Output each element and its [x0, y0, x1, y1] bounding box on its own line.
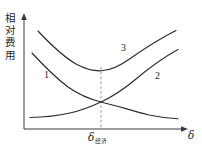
x-axis-tick-label-delta-economic: δ经济	[88, 132, 106, 143]
delta-subscript: 经济	[95, 138, 107, 144]
curve-label-1: 1	[44, 70, 49, 80]
curve-label-3: 3	[121, 43, 126, 53]
y-axis-arrow-icon	[21, 13, 27, 20]
curve-label-2: 2	[155, 71, 160, 81]
curve-1-heat-loss-cost	[30, 50, 178, 118]
delta-symbol: δ	[88, 131, 94, 143]
curve-3-total-cost	[38, 31, 176, 71]
x-axis-label: δ	[188, 130, 194, 141]
y-axis-label: 相 对 费 用	[2, 12, 17, 61]
x-axis-arrow-icon	[181, 126, 188, 131]
relative-cost-vs-thickness-chart: 相 对 费 用 1 2 3 δ经济 δ	[0, 0, 202, 159]
